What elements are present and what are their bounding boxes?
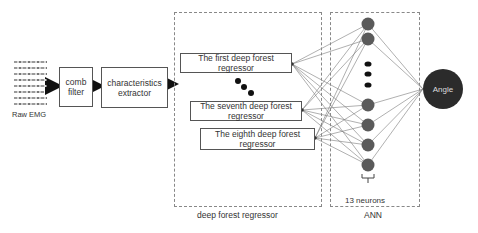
regressor-eighth-box: The eighth deep forest regressor [200,128,315,150]
output-angle-node: Angle [423,69,463,109]
regressor-first-box: The first deep forest regressor [180,53,292,73]
comb-filter-box: comb filter [59,67,93,107]
neuron-count-label: 13 neurons [345,196,385,205]
regressor-seventh-box: The seventh deep forest regressor [190,101,302,121]
diagram-canvas: Raw EMG comb filter characteristics extr… [0,0,478,233]
raw-emg-label: Raw EMG [12,110,46,119]
ann-group-label: ANN [364,210,382,220]
characteristics-extractor-box: characteristics extractor [101,67,168,108]
deep-forest-group-label: deep forest regressor [197,210,278,220]
ann-group [330,12,420,207]
